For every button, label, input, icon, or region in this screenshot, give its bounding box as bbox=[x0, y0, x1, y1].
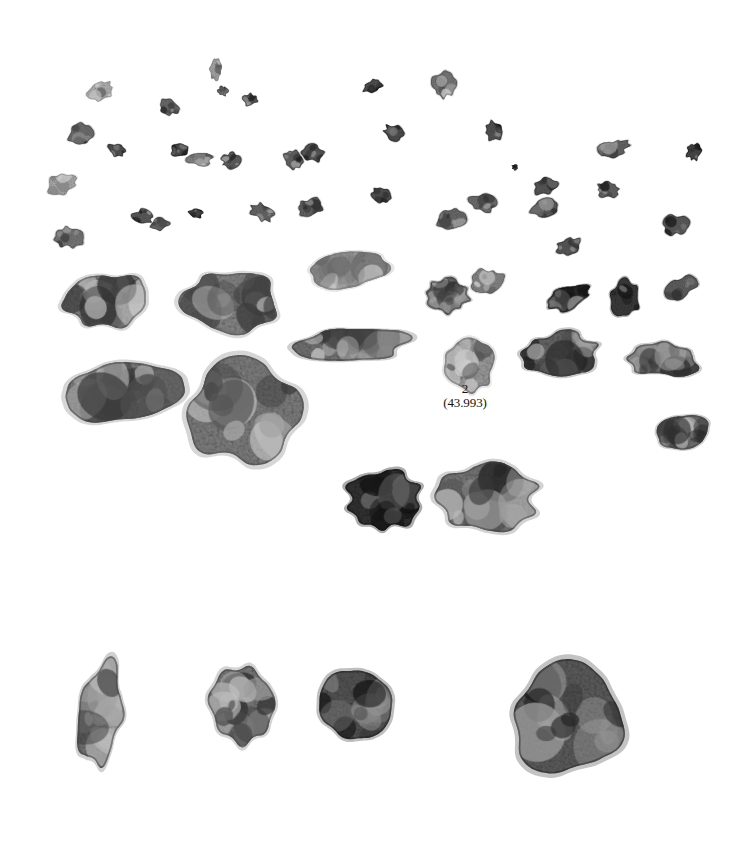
sample-number: 2 bbox=[405, 382, 525, 396]
sample-label: 2 (43.993) bbox=[405, 382, 525, 410]
specimen-photograph bbox=[0, 0, 735, 843]
sample-mass: (43.993) bbox=[405, 396, 525, 410]
specimen-plate: 2 (43.993) bbox=[0, 0, 735, 843]
